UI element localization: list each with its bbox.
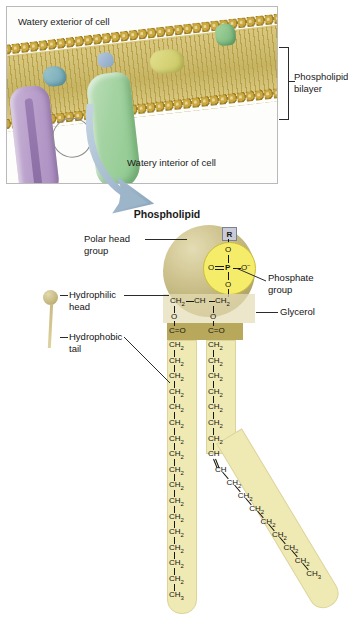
unsaturated-tail-lower xyxy=(216,428,344,613)
tail-left-unit-5: CH2 xyxy=(169,419,184,430)
leader-hydrophilic-right xyxy=(124,295,169,296)
phospholipid-bilayer-label: Phospholipid bilayer xyxy=(294,71,346,95)
zoom-arrow-icon xyxy=(84,104,154,214)
hydrophilic-head-label: Hydrophilic head xyxy=(69,289,123,312)
tail-right-upper-unit-2: CH2 xyxy=(208,372,223,383)
leader-hydrophilic-left xyxy=(60,295,68,296)
leader-polar-head xyxy=(145,239,187,240)
glycerol-c1: CH2 xyxy=(170,297,185,308)
bond-double-upper xyxy=(215,266,224,267)
tail-left-unit-1: CH2 xyxy=(169,357,184,368)
ester-oxygen-right: O xyxy=(210,313,216,321)
leader-glycerol xyxy=(256,312,278,313)
glycerol-c2: CH xyxy=(194,297,206,305)
blue-surface-protein xyxy=(97,52,115,69)
bond-topO-to-P xyxy=(228,255,229,263)
tail-left-unit-11: CH2 xyxy=(169,513,184,524)
r-group-box: R xyxy=(222,227,237,241)
tail-right-upper-unit-6: CH2 xyxy=(208,435,223,446)
bond-double-lower xyxy=(215,269,224,270)
glycerol-c3: CH2 xyxy=(215,297,230,308)
tail-left-unit-12: CH2 xyxy=(169,528,184,539)
watery-exterior-label: Watery exterior of cell xyxy=(18,16,110,27)
carbonyl-right: C=O xyxy=(208,327,225,335)
tail-left-unit-16: CH3 xyxy=(169,591,184,602)
hydrophobic-tail-label: Hydrophobic tail xyxy=(69,331,123,354)
tail-right-upper-unit-4: CH2 xyxy=(208,403,223,414)
tail-left-unit-13: CH2 xyxy=(169,544,184,555)
phosphate-top-oxygen: O xyxy=(225,246,231,254)
bond-c1-c2 xyxy=(186,301,194,302)
tail-left-unit-15: CH2 xyxy=(169,575,184,586)
simplified-phospholipid-head-icon xyxy=(43,290,58,305)
tail-left-unit-10: CH2 xyxy=(169,497,184,508)
tail-left-unit-14: CH2 xyxy=(169,559,184,570)
tail-left-unit-9: CH2 xyxy=(169,481,184,492)
bilayer-bracket xyxy=(279,47,289,120)
yellow-surface-protein xyxy=(149,48,185,76)
tail-left-unit-3: CH2 xyxy=(169,388,184,399)
tail-right-upper-unit-0: CH2 xyxy=(208,341,223,352)
phosphate-left-oxygen: O xyxy=(208,264,214,272)
ester-oxygen-left: O xyxy=(171,313,177,321)
tail-left-unit-7: CH2 xyxy=(169,450,184,461)
page-title: Phospholipid xyxy=(134,208,201,220)
leader-hydrophobic-right xyxy=(124,333,172,385)
tail-left-unit-6: CH2 xyxy=(169,435,184,446)
tail-right-double-bond-ch-1: CH xyxy=(208,450,220,458)
tail-right-upper-unit-1: CH2 xyxy=(208,357,223,368)
polar-head-group-label: Polar head group xyxy=(84,233,144,256)
glycerol-label: Glycerol xyxy=(280,306,330,318)
channel-protein-pore xyxy=(24,98,42,184)
leader-hydrophobic-left xyxy=(60,337,68,338)
phosphate-bottom-oxygen: O xyxy=(225,281,231,289)
bond-P-to-bottomO xyxy=(228,272,229,280)
leader-phosphate xyxy=(236,268,268,284)
tail-left-unit-2: CH2 xyxy=(169,372,184,383)
green-surface-protein xyxy=(214,23,236,47)
simplified-phospholipid-tail-icon xyxy=(48,304,53,348)
tail-left-unit-8: CH2 xyxy=(169,466,184,477)
tail-left-unit-0: CH2 xyxy=(169,341,184,352)
tail-right-lower-unit-7: CH3 xyxy=(306,570,321,581)
phosphorus-atom: P xyxy=(225,264,230,272)
tail-right-upper-unit-5: CH2 xyxy=(208,419,223,430)
phosphate-group-label: Phosphate group xyxy=(268,272,320,295)
tail-right-upper-unit-3: CH2 xyxy=(208,388,223,399)
tail-left-unit-4: CH2 xyxy=(169,403,184,414)
